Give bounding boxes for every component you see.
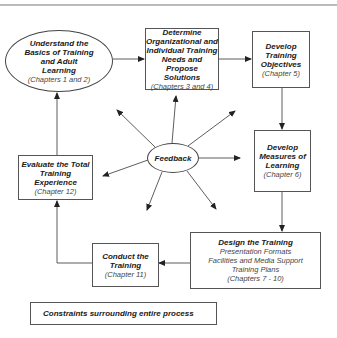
node-title: Conduct the: [102, 252, 149, 261]
feedback-arrow-design: [187, 171, 216, 209]
node-detail: Presentation Formats: [220, 247, 292, 256]
feedback-arrow-determine: [172, 96, 176, 143]
node-chapter: (Chapter 6): [264, 170, 302, 179]
feedback-arrow-evaluate: [103, 160, 148, 176]
node-title: Measures of: [259, 152, 306, 161]
node-conduct-training: Conduct the Training (Chapter 11): [92, 243, 159, 287]
node-chapter: (Chapters 7 - 10): [227, 274, 284, 283]
node-develop-measures: Develop Measures of Learning (Chapter 6): [254, 130, 311, 192]
node-develop-objectives: Develop Training Objectives (Chapter 5): [252, 31, 310, 88]
node-title: Basics of Training: [24, 48, 93, 57]
node-title: Training: [110, 261, 141, 270]
node-determine-needs: Determine Organizational and Individual …: [145, 28, 219, 90]
node-chapter: (Chapters 3 and 4): [151, 82, 214, 91]
node-chapter: (Chapters 1 and 2): [28, 75, 91, 84]
node-chapter: (Chapter 5): [262, 69, 300, 78]
node-chapter: (Chapter 12): [34, 187, 76, 196]
node-title: Objectives: [261, 60, 301, 69]
feedback-arrow-conduct: [147, 172, 162, 210]
node-title: and Adult: [41, 57, 78, 66]
node-detail: Facilities and Media Support: [208, 256, 303, 265]
node-title: Organizational and: [146, 37, 218, 46]
arrow-conduct-to-evaluate: [57, 201, 92, 263]
node-design-training: Design the Training Presentation Formats…: [190, 232, 321, 289]
node-title: Training: [40, 169, 71, 178]
node-evaluate-experience: Evaluate the Total Training Experience (…: [18, 155, 93, 200]
node-title: Learning: [42, 66, 76, 75]
feedback-arrow-understand: [117, 110, 155, 147]
node-title: Develop: [267, 143, 298, 152]
feedback-arrow-objectives: [188, 111, 235, 146]
node-title: Feedback: [155, 154, 192, 163]
node-title: Develop: [265, 42, 296, 51]
node-title: Solutions: [164, 73, 200, 82]
node-detail: Training Plans: [232, 265, 279, 274]
node-title: Needs and Propose: [146, 55, 218, 73]
constraints-label: Constraints surrounding entire process: [43, 309, 194, 318]
node-title: Training: [265, 51, 296, 60]
node-title: Evaluate the Total: [21, 160, 89, 169]
node-chapter: (Chapter 11): [105, 270, 147, 279]
node-title: Experience: [34, 178, 77, 187]
constraints-note: Constraints surrounding entire process: [30, 302, 217, 325]
node-understand-basics: Understand the Basics of Training and Ad…: [5, 30, 113, 92]
node-title: Determine: [162, 28, 201, 37]
node-title: Individual Training: [147, 46, 218, 55]
node-title: Learning: [266, 161, 300, 170]
node-title: Understand the: [30, 39, 89, 48]
node-title: Design the Training: [218, 238, 293, 247]
node-feedback: Feedback: [147, 143, 199, 173]
